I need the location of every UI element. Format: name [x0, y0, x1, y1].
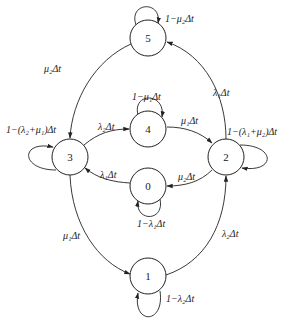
- state-label-0: 0: [145, 180, 151, 192]
- state-label-3: 3: [67, 151, 73, 163]
- state-node-5: 5: [130, 20, 166, 56]
- edge-label-3-to-4: λ₂Δt: [97, 121, 115, 132]
- edge-label-3-self: 1−(λ₂+μ₁)Δt: [6, 124, 56, 136]
- state-label-2: 2: [223, 151, 229, 163]
- state-node-1: 1: [130, 258, 166, 294]
- state-label-5: 5: [145, 32, 151, 44]
- state-node-2: 2: [208, 139, 244, 175]
- edge-label-1-self: 1−λ₂Δt: [166, 293, 194, 304]
- edge-label-1-to-2: λ₂Δt: [221, 228, 239, 239]
- edge-3-to-1: [70, 175, 130, 274]
- edge-4-to-2: [167, 127, 212, 143]
- edge-label-3-to-1: μ₁Δt: [62, 230, 80, 241]
- edge-1-to-2: [166, 176, 226, 275]
- edge-label-0-self: 1−λ₁Δt: [137, 218, 165, 229]
- edge-label-2-to-0: μ₂Δt: [177, 171, 195, 182]
- edge-1-self: [137, 291, 160, 317]
- state-label-1: 1: [145, 270, 151, 282]
- edge-label-5-self: 1−μ₂Δt: [165, 13, 194, 24]
- edge-label-0-to-3: λ₁Δt: [99, 169, 117, 180]
- edge-label-4-self: 1−μ₁Δt: [132, 91, 161, 102]
- state-node-0: 0: [130, 168, 166, 204]
- state-node-3: 3: [52, 139, 88, 175]
- edge-label-4-to-2: μ₁Δt: [180, 115, 198, 126]
- edge-label-5-to-3: μ₂Δt: [43, 63, 61, 74]
- state-node-4: 4: [130, 111, 166, 147]
- state-label-4: 4: [145, 123, 151, 135]
- edge-label-2-self: 1−(λ₁+μ₂)Δt: [227, 126, 277, 138]
- edge-label-2-to-5: λ₁Δt: [212, 87, 230, 98]
- state-transition-diagram: 5 4 3 2 0 1 1−μ₂Δt μ₂Δt λ₁Δt 1−μ₁Δt λ₂Δt…: [0, 0, 290, 325]
